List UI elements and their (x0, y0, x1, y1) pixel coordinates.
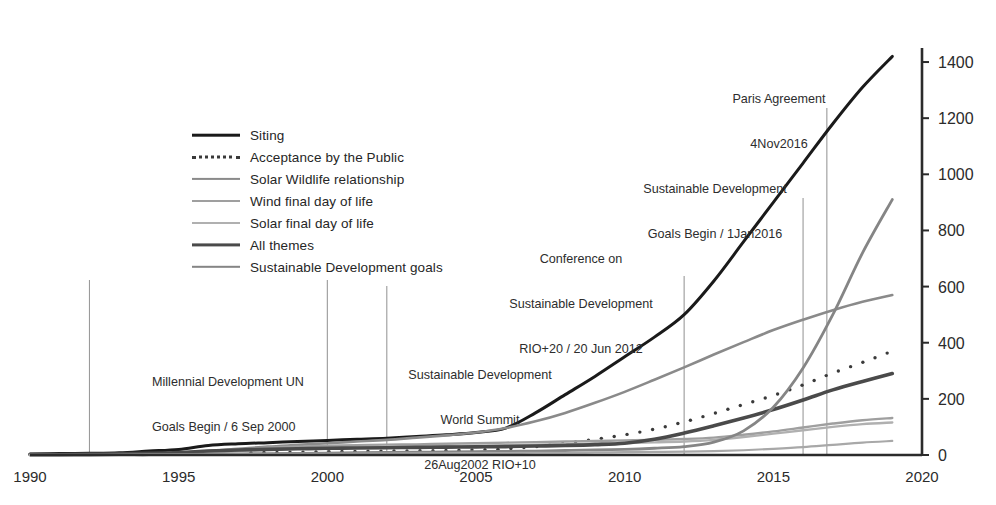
y-tick-label: 400 (938, 335, 965, 352)
y-tick-label: 1000 (938, 166, 974, 183)
annotation-millennial-line1: Millennial Development UN (152, 375, 304, 390)
legend-item[interactable]: Acceptance by the Public (192, 146, 522, 168)
series-dot (825, 374, 828, 377)
x-tick-label: 1995 (162, 468, 195, 485)
annotation-rio20-line3: RIO+20 / 20 Jun 2012 (492, 342, 670, 357)
legend-swatch-icon (192, 261, 240, 273)
series-dot (701, 415, 704, 418)
annotation-millennial: Millennial Development UN Goals Begin / … (152, 345, 304, 465)
chart-container: 1990199520002005201020152020 02004006008… (0, 0, 996, 505)
y-tick-label: 600 (938, 279, 965, 296)
annotation-paris-line1: Paris Agreement (700, 92, 858, 107)
series-dot (676, 422, 679, 425)
annotation-sdg-line1: Sustainable Development (622, 182, 808, 197)
y-tick-label: 800 (938, 222, 965, 239)
legend-swatch-icon (192, 151, 240, 163)
annotation-paris-line2: 4Nov2016 (700, 137, 858, 152)
legend-item[interactable]: Siting (192, 124, 522, 146)
chart-legend: SitingAcceptance by the PublicSolar Wild… (192, 124, 522, 278)
x-tick-label: 2000 (311, 468, 344, 485)
annotation-summit-line2: World Summit (390, 413, 570, 428)
y-tick-labels: 0200400600800100012001400 (922, 54, 974, 464)
series-dot (664, 425, 667, 428)
series-dot (800, 384, 803, 387)
legend-item-label: Wind final day of life (250, 194, 373, 209)
series-dot (885, 351, 888, 354)
series-dot (751, 400, 754, 403)
legend-swatch-icon (192, 239, 240, 251)
annotation-rio20-line2: Sustainable Development (492, 297, 670, 312)
series-dot (812, 379, 815, 382)
legend-item-label: Siting (250, 128, 284, 143)
legend-item[interactable]: Wind final day of life (192, 190, 522, 212)
series-dot (849, 365, 852, 368)
legend-item-label: All themes (250, 238, 314, 253)
legend-swatch-icon (192, 173, 240, 185)
series-dot (613, 435, 616, 438)
legend-item[interactable]: Solar final day of life (192, 212, 522, 234)
legend-item[interactable]: Sustainable Development goals (192, 256, 522, 278)
series-dot (638, 430, 641, 433)
annotation-millennial-line2: Goals Begin / 6 Sep 2000 (152, 420, 304, 435)
y-tick-label: 1400 (938, 54, 974, 71)
legend-item[interactable]: Solar Wildlife relationship (192, 168, 522, 190)
legend-swatch-icon (192, 129, 240, 141)
x-tick-label: 2020 (905, 468, 938, 485)
series-dot (873, 356, 876, 359)
series-dot (739, 404, 742, 407)
annotation-sdg-line2: Goals Begin / 1Jan2016 (622, 227, 808, 242)
series-dot (726, 408, 729, 411)
series-dot (600, 437, 603, 440)
y-tick-label: 1200 (938, 110, 974, 127)
series-dot (689, 418, 692, 421)
series-dot (861, 361, 864, 364)
legend-item-label: Sustainable Development goals (250, 260, 443, 275)
series-dot (776, 392, 779, 395)
annotation-paris: Paris Agreement 4Nov2016 (700, 62, 858, 182)
series-dot (764, 396, 767, 399)
annotation-summit-line3: 26Aug2002 RIO+10 (390, 458, 570, 473)
series-dot (714, 411, 717, 414)
y-tick-label: 200 (938, 391, 965, 408)
legend-item[interactable]: All themes (192, 234, 522, 256)
legend-item-label: Solar final day of life (250, 216, 374, 231)
series-dot (651, 428, 654, 431)
legend-item-label: Acceptance by the Public (250, 150, 404, 165)
legend-swatch-icon (192, 195, 240, 207)
legend-swatch-icon (192, 217, 240, 229)
series-dot (837, 369, 840, 372)
x-tick-label: 2010 (608, 468, 641, 485)
series-dot (625, 433, 628, 436)
legend-item-label: Solar Wildlife relationship (250, 172, 404, 187)
x-tick-label: 2015 (757, 468, 790, 485)
y-tick-label: 0 (938, 447, 947, 464)
x-tick-label: 1990 (13, 468, 46, 485)
